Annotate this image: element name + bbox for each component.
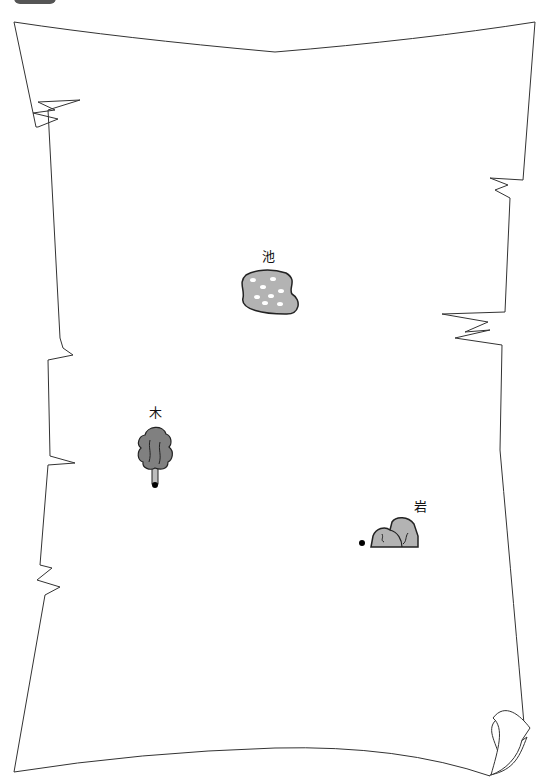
- tree-marker[interactable]: [152, 482, 158, 488]
- parchment-map: [0, 0, 548, 782]
- tree-label: 木: [140, 402, 170, 421]
- rock-marker[interactable]: [359, 540, 365, 546]
- pond-icon[interactable]: [242, 270, 298, 314]
- pond-label: 池: [253, 246, 283, 265]
- rock-label: 岩: [405, 496, 435, 515]
- parchment-border: [14, 22, 535, 776]
